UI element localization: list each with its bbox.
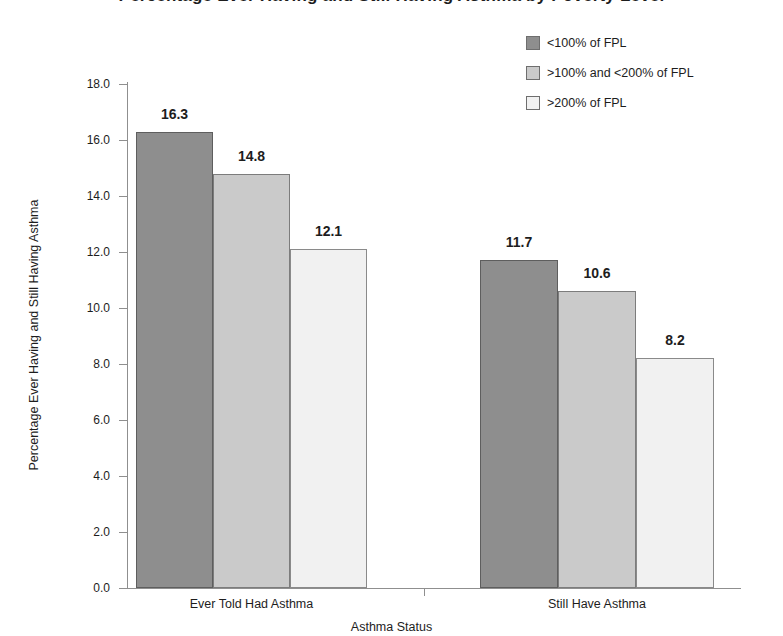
bar-value-label: 16.3 (136, 106, 213, 122)
mid-gray-swatch-icon (526, 66, 540, 80)
y-axis-tick-label: 2.0 (62, 525, 110, 539)
legend-label-1: >100% and <200% of FPL (547, 66, 694, 80)
legend-item-0[interactable]: <100% of FPL (526, 28, 776, 58)
bar-value-label: 14.8 (213, 148, 290, 164)
asthma-poverty-bar-chart: Percentage Ever Having and Still Having … (0, 0, 783, 636)
bar-value-label: 8.2 (636, 332, 714, 348)
y-axis-tick-label: 6.0 (62, 413, 110, 427)
y-axis-tick-label: 18.0 (62, 77, 110, 91)
y-axis-tick-label: 16.0 (62, 133, 110, 147)
chart-legend: <100% of FPL >100% and <200% of FPL >200… (526, 28, 776, 118)
y-axis-tick (119, 588, 127, 589)
y-axis-tick (119, 532, 127, 533)
y-axis-tick (119, 84, 127, 85)
y-axis-tick-label: 4.0 (62, 469, 110, 483)
bar-0-2[interactable] (290, 249, 367, 588)
x-axis-group-label-0: Ever Told Had Asthma (142, 597, 362, 611)
x-axis-title: Asthma Status (0, 620, 783, 634)
y-axis-line (127, 82, 128, 589)
y-axis-tick (119, 420, 127, 421)
y-axis-tick (119, 476, 127, 477)
x-axis-group-separator-tick (424, 588, 425, 596)
y-axis-tick-label: 12.0 (62, 245, 110, 259)
x-axis-line (127, 588, 741, 589)
bar-value-label: 11.7 (480, 234, 558, 250)
y-axis-tick-label: 0.0 (62, 581, 110, 595)
y-axis-tick (119, 252, 127, 253)
y-axis-tick-label: 8.0 (62, 357, 110, 371)
chart-title: Percentage Ever Having and Still Having … (0, 0, 783, 6)
y-axis-tick (119, 140, 127, 141)
y-axis-tick (119, 308, 127, 309)
legend-label-0: <100% of FPL (547, 36, 627, 50)
bar-1-2[interactable] (636, 358, 714, 588)
bar-value-label: 10.6 (558, 265, 636, 281)
x-axis-group-label-1: Still Have Asthma (487, 597, 707, 611)
dark-gray-swatch-icon (526, 36, 540, 50)
y-axis-tick (119, 196, 127, 197)
bar-1-1[interactable] (558, 291, 636, 588)
bar-0-1[interactable] (213, 174, 290, 588)
y-axis-tick (119, 364, 127, 365)
y-axis-tick-label: 14.0 (62, 189, 110, 203)
legend-item-2[interactable]: >200% of FPL (526, 88, 776, 118)
y-axis-tick-label: 10.0 (62, 301, 110, 315)
light-gray-swatch-icon (526, 96, 540, 110)
legend-item-1[interactable]: >100% and <200% of FPL (526, 58, 776, 88)
legend-label-2: >200% of FPL (547, 96, 627, 110)
bar-0-0[interactable] (136, 132, 213, 588)
bar-value-label: 12.1 (290, 223, 367, 239)
bar-1-0[interactable] (480, 260, 558, 588)
y-axis-title: Percentage Ever Having and Still Having … (27, 125, 41, 545)
